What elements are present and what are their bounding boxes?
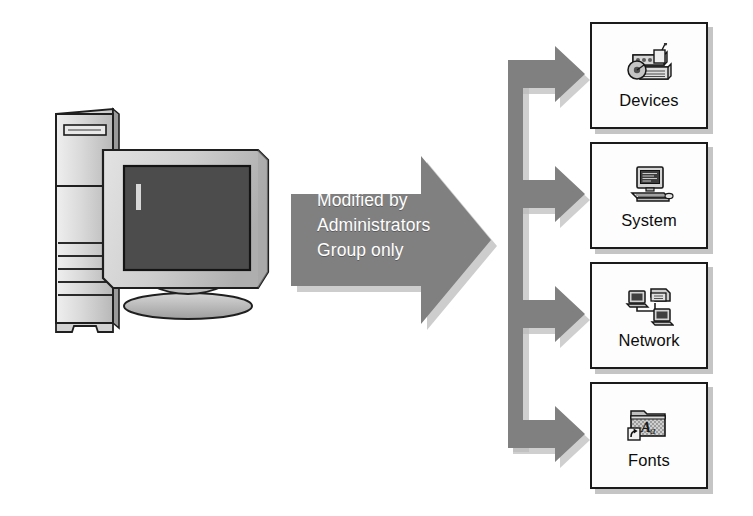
main-arrow-svg (285, 150, 500, 335)
main-arrow: Modified by Administrators Group only (285, 150, 500, 335)
node-box-devices[interactable]: Devices (590, 22, 708, 129)
computer-system-icon (623, 162, 675, 208)
computer-illustration-svg (0, 0, 300, 340)
node-box-fonts[interactable]: A a Fonts (590, 382, 708, 489)
crt-monitor (103, 150, 268, 319)
svg-text:a: a (650, 424, 656, 436)
main-arrow-shape (291, 156, 491, 324)
node-box-network[interactable]: Network (590, 262, 708, 369)
node-label-fonts: Fonts (628, 450, 670, 470)
branch-connector (498, 18, 603, 498)
node-box-system[interactable]: System (590, 142, 708, 249)
network-computers-icon (623, 282, 675, 328)
node-label-network: Network (618, 330, 679, 350)
diagram-canvas: Modified by Administrators Group only (0, 0, 753, 516)
node-label-system: System (621, 210, 677, 230)
node-label-devices: Devices (619, 90, 678, 110)
branch-connector-svg (498, 18, 603, 498)
branch-connector-shape (508, 46, 585, 462)
fonts-folder-shortcut-icon: A a (623, 402, 675, 448)
branch-connector-shadow (513, 52, 590, 468)
computer-illustration (0, 0, 300, 340)
devices-hardware-icon (623, 42, 675, 88)
